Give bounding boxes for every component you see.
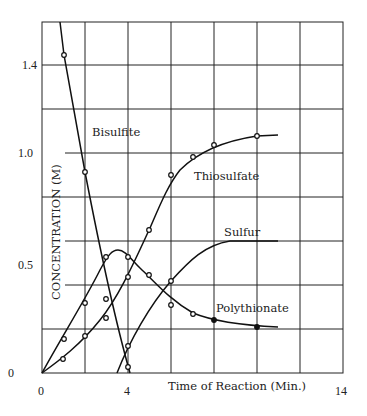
y-tick-0-5: 0.5	[18, 258, 33, 272]
y-tick-0: 0	[8, 366, 14, 380]
y-tick-1-0: 1.0	[18, 146, 33, 160]
grid	[42, 22, 343, 373]
x-tick-4: 4	[124, 384, 130, 398]
polythionate-label: Polythionate	[216, 301, 289, 315]
y-axis-title: CONCENTRATION (M)	[49, 164, 63, 300]
concentration-chart: Bisulfite Thiosulfate Sulfur Polythionat…	[0, 0, 367, 416]
sulfur-label: Sulfur	[224, 225, 261, 239]
x-tick-14: 14	[335, 384, 347, 398]
x-tick-0: 0	[38, 384, 44, 398]
thiosulfate-label: Thiosulfate	[194, 169, 259, 183]
x-axis-title: Time of Reaction (Min.)	[168, 379, 306, 393]
bisulfite-label: Bisulfite	[92, 125, 140, 139]
y-tick-1-4: 1.4	[22, 58, 37, 72]
